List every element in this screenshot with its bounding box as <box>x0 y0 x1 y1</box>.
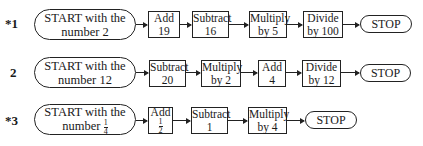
step-value: 12 <box>149 118 172 135</box>
problem-label: *3 <box>5 113 18 129</box>
step-box-add: Add 19 <box>148 11 180 38</box>
flow-arrow <box>136 24 147 25</box>
flow-arrow <box>341 72 359 73</box>
flow-arrow <box>173 120 190 121</box>
step-value: by 100 <box>304 25 342 38</box>
start-text-line1: START with the <box>35 11 135 25</box>
step-value: by 2 <box>202 74 240 87</box>
flow-arrow <box>136 72 148 73</box>
start-text-line2: number 12 <box>35 73 135 87</box>
start-number-text: number <box>62 119 100 133</box>
problem-label: *1 <box>5 16 18 32</box>
step-value: 4 <box>259 74 285 87</box>
step-box-subtract: Subtract 1 <box>191 107 228 134</box>
step-op: Divide <box>304 12 342 25</box>
start-node: START with the number 14 <box>34 104 136 135</box>
flow-arrow <box>241 72 257 73</box>
start-text-line2: number 14 <box>35 119 135 136</box>
step-op: Multiply <box>249 108 286 121</box>
flow-arrow <box>136 120 147 121</box>
flow-arrow <box>287 120 304 121</box>
step-op: Add <box>149 12 179 25</box>
step-op: Subtract <box>150 61 185 74</box>
start-text-line1: START with the <box>35 59 135 73</box>
fraction: 14 <box>104 119 108 136</box>
step-box-add: Add 12 <box>148 107 173 134</box>
start-node: START with the number 12 <box>34 57 136 88</box>
step-op: Subtract <box>193 12 228 25</box>
step-box-multiply: Multiply by 4 <box>248 107 287 134</box>
step-box-subtract: Subtract 16 <box>192 11 229 38</box>
fraction: 12 <box>159 118 163 135</box>
step-op: Multiply <box>250 12 286 25</box>
flow-arrow <box>287 24 302 25</box>
step-value: by 12 <box>303 74 340 87</box>
flow-arrow <box>180 24 191 25</box>
start-text-line2: number 2 <box>35 25 135 39</box>
step-box-add: Add 4 <box>258 60 286 87</box>
flow-arrow <box>229 24 248 25</box>
start-node: START with the number 2 <box>34 9 136 40</box>
flow-arrow <box>228 120 247 121</box>
flow-arrow <box>286 72 301 73</box>
step-box-divide: Divide by 12 <box>302 60 341 87</box>
stop-node: STOP <box>360 15 412 33</box>
step-value: 20 <box>150 74 185 87</box>
step-value: 19 <box>149 25 179 38</box>
step-box-subtract: Subtract 20 <box>149 60 186 87</box>
step-value: 16 <box>193 25 228 38</box>
start-text-line1: START with the <box>35 105 135 119</box>
step-value: by 4 <box>249 121 286 134</box>
step-op: Subtract <box>192 108 227 121</box>
stop-node: STOP <box>305 111 357 129</box>
step-value: 1 <box>192 121 227 134</box>
step-op: Divide <box>303 61 340 74</box>
flow-arrow <box>186 72 200 73</box>
stop-node: STOP <box>360 64 411 82</box>
step-value: by 5 <box>250 25 286 38</box>
step-op: Multiply <box>202 61 240 74</box>
problem-label: 2 <box>10 65 17 81</box>
step-box-multiply: Multiply by 2 <box>201 60 241 87</box>
step-box-multiply: Multiply by 5 <box>249 11 287 38</box>
flow-arrow <box>343 24 359 25</box>
step-op: Add <box>259 61 285 74</box>
step-box-divide: Divide by 100 <box>303 11 343 38</box>
